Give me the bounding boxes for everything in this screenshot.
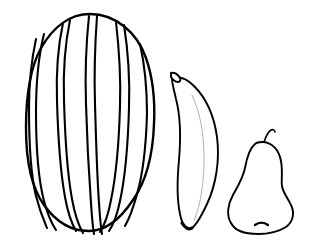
watermelon-icon: [26, 14, 154, 234]
fruit-illustration-canvas: [0, 0, 309, 246]
fruit-line-drawing-svg: [0, 0, 309, 246]
